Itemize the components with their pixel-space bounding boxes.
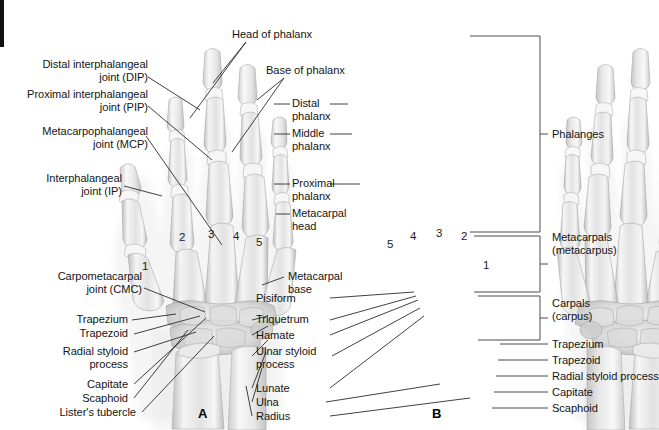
label-ulnar-styloid-process: Ulnar styloid process bbox=[256, 345, 332, 372]
label-mcp-joint: Metacarpophalangeal joint (MCP) bbox=[6, 125, 148, 152]
label-metacarpal-head: Metacarpal head bbox=[292, 207, 362, 234]
label-trapezoid-right: Trapezoid bbox=[552, 354, 600, 367]
label-triquetrum: Triquetrum bbox=[256, 313, 309, 326]
label-distal-phalanx: Distal phalanx bbox=[292, 97, 352, 124]
label-head-of-phalanx: Head of phalanx bbox=[232, 28, 312, 41]
digit-number-right-5: 5 bbox=[387, 238, 393, 250]
digit-number-left-2: 2 bbox=[179, 231, 185, 243]
label-carpals: Carpals (carpus) bbox=[552, 297, 632, 324]
label-pip-joint: Proximal interphalangeal joint (PIP) bbox=[4, 88, 148, 115]
label-listers-tubercle: Lister's tubercle bbox=[8, 406, 136, 419]
label-ulna: Ulna bbox=[256, 396, 279, 409]
digit-number-left-5: 5 bbox=[256, 236, 262, 248]
panel-letter-a: A bbox=[198, 406, 207, 421]
digit-number-left-3: 3 bbox=[208, 228, 214, 240]
label-hamate: Hamate bbox=[256, 329, 295, 342]
label-capitate-right: Capitate bbox=[552, 386, 593, 399]
digit-number-right-3: 3 bbox=[436, 227, 442, 239]
label-trapezoid-left: Trapezoid bbox=[20, 327, 128, 340]
label-radial-styloid-left: Radial styloid process bbox=[20, 345, 128, 372]
label-scaphoid-left: Scaphoid bbox=[20, 392, 128, 405]
digit-number-left-1: 1 bbox=[142, 260, 148, 272]
label-middle-phalanx: Middle phalanx bbox=[292, 127, 352, 154]
label-phalanges: Phalanges bbox=[552, 128, 604, 141]
digit-number-right-1: 1 bbox=[483, 259, 489, 271]
digit-number-right-2: 2 bbox=[461, 230, 467, 242]
label-lunate: Lunate bbox=[256, 382, 290, 395]
panel-letter-b: B bbox=[432, 406, 441, 421]
label-trapezium-right: Trapezium bbox=[552, 338, 604, 351]
label-metacarpals: Metacarpals (metacarpus) bbox=[552, 231, 644, 258]
label-cmc-joint: Carpometacarpal joint (CMC) bbox=[10, 270, 142, 297]
label-capitate-left: Capitate bbox=[20, 378, 128, 391]
label-radial-styloid-right: Radial styloid process bbox=[552, 370, 659, 383]
label-dip-joint: Distal interphalangeal joint (DIP) bbox=[8, 58, 148, 85]
label-trapezium-left: Trapezium bbox=[20, 313, 128, 326]
label-pisiform: Pisiform bbox=[256, 292, 296, 305]
label-base-of-phalanx: Base of phalanx bbox=[266, 64, 345, 77]
digit-number-right-4: 4 bbox=[410, 230, 416, 242]
label-radius: Radius bbox=[256, 410, 290, 423]
label-ip-joint: Interphalangeal joint (IP) bbox=[10, 172, 122, 199]
digit-number-left-4: 4 bbox=[233, 230, 239, 242]
label-metacarpal-base: Metacarpal base bbox=[288, 270, 360, 297]
label-proximal-phalanx: Proximal phalanx bbox=[292, 177, 354, 204]
label-scaphoid-right: Scaphoid bbox=[552, 402, 598, 415]
